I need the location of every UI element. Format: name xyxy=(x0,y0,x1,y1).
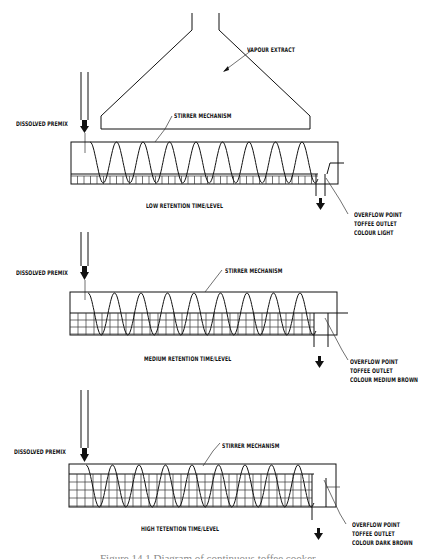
stirrer-label: STIRRER MECHANISM xyxy=(222,441,279,450)
outlet-arrow-icon xyxy=(316,203,325,210)
feed-arrow-icon xyxy=(80,272,89,280)
outlet-line-2: TOFFEE OUTLET xyxy=(350,366,393,375)
feed-arrow-icon xyxy=(80,454,89,462)
stirrer-leader xyxy=(203,443,220,466)
figure-caption: Figure 14.1 Diagram of continuous toffee… xyxy=(100,553,316,559)
vapour-extract-label: VAPOUR EXTRACT xyxy=(247,45,295,54)
overflow-leader xyxy=(326,178,348,214)
feed-label: DISSOLVED PREMIX xyxy=(16,119,68,128)
panel-medium-retention xyxy=(70,232,348,368)
overflow-leader xyxy=(324,480,346,524)
stirrer-label: STIRRER MECHANISM xyxy=(225,266,282,275)
outlet-line-3: COLOUR MEDIUM BROWN xyxy=(350,375,418,384)
panel-low-retention xyxy=(71,72,348,214)
stirrer-leader xyxy=(205,270,222,292)
level-label: HIGH TETENTION TIME/LEVEL xyxy=(141,524,219,533)
panel-high-retention xyxy=(69,390,346,540)
feed-label: DISSOLVED PREMIX xyxy=(16,268,68,277)
outlet-line-2: TOFFEE OUTLET xyxy=(352,529,395,538)
outlet-line-1: OVERFLOW POINT xyxy=(352,520,400,529)
stirrer-label: STIRRER MECHANISM xyxy=(174,111,231,120)
level-label: MEDIUM RETENTION TIME/LEVEL xyxy=(144,354,231,363)
outlet-line-1: OVERFLOW POINT xyxy=(350,357,398,366)
outlet-arrow-icon xyxy=(315,361,324,368)
feed-arrow-icon xyxy=(80,126,89,133)
arrow-icon xyxy=(223,66,229,72)
outlet-line-1: OVERFLOW POINT xyxy=(354,210,402,219)
feed-label: DISSOLVED PREMIX xyxy=(14,447,66,456)
outlet-line-3: COLOUR LIGHT xyxy=(354,228,394,237)
diagram-canvas xyxy=(0,0,443,559)
level-label: LOW RETENTION TIME/LEVEL xyxy=(146,201,223,210)
outlet-line-2: TOFFEE OUTLET xyxy=(354,219,397,228)
outlet-line-3: COLOUR DARK BROWN xyxy=(352,538,413,547)
outlet-arrow-icon xyxy=(314,533,323,540)
